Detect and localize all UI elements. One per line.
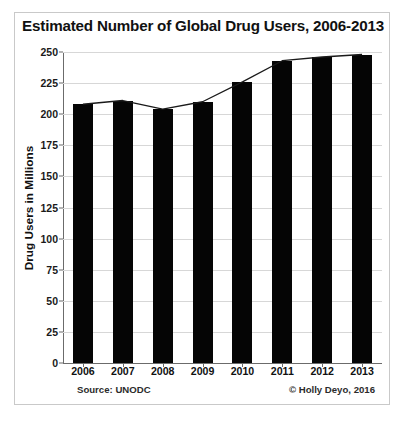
y-tick-label: 200 [40,108,58,120]
y-tick-label: 125 [40,202,58,214]
x-tick-label: 2007 [111,365,135,377]
y-tick-label: 150 [40,170,58,182]
chart-title: Estimated Number of Global Drug Users, 2… [15,17,391,34]
x-tick-label: 2006 [71,365,95,377]
x-tick-label: 2010 [231,365,255,377]
x-tick-label: 2012 [310,365,334,377]
credit-note: © Holly Deyo, 2016 [289,384,375,395]
x-tick-label: 2011 [271,365,294,377]
y-tick-label: 25 [46,326,58,338]
y-axis-label: Drug Users in Millions [21,52,37,363]
source-note: Source: UNODC [77,384,151,395]
x-tick-label: 2013 [350,365,374,377]
y-tick-label: 225 [40,77,58,89]
gridline [63,363,382,364]
y-tick-label: 250 [40,46,58,58]
y-tick-label: 100 [40,233,58,245]
y-tick-label: 75 [46,264,58,276]
trend-line-path [83,54,362,109]
y-tick-label: 50 [46,295,58,307]
x-tick-label: 2008 [151,365,175,377]
chart-figure: Estimated Number of Global Drug Users, 2… [14,12,390,405]
y-axis-label-text: Drug Users in Millions [22,145,36,270]
y-tick-label: 0 [52,357,58,369]
x-tick-label: 2009 [191,365,215,377]
plot-area: 0255075100125150175200225250 20062007200… [63,52,382,363]
trend-line-series [63,52,382,363]
y-tick-label: 175 [40,139,58,151]
